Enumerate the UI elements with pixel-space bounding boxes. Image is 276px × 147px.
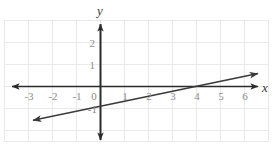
x-tick-label: -3	[24, 90, 34, 102]
x-tick-label: -2	[48, 90, 57, 102]
y-tick-label: 1	[90, 59, 96, 71]
y-tick-label: 2	[90, 37, 96, 49]
x-tick-label: 2	[146, 90, 152, 102]
x-tick-label: 6	[242, 90, 248, 102]
x-axis-label: x	[261, 80, 268, 95]
graph-canvas: -3 -2 -1 0 1 2 3 4 5 6 2 1 -1 y x	[0, 0, 276, 147]
x-tick-label: 5	[218, 90, 224, 102]
x-tick-label: 4	[194, 90, 200, 102]
x-tick-label: 1	[122, 90, 128, 102]
y-axis-label: y	[95, 3, 103, 18]
figure-background	[0, 0, 276, 147]
x-tick-label: -1	[72, 90, 81, 102]
y-tick-label: -1	[88, 103, 97, 115]
coordinate-plane-figure: -3 -2 -1 0 1 2 3 4 5 6 2 1 -1 y x	[0, 0, 276, 147]
x-tick-label: 3	[170, 90, 176, 102]
x-tick-label: 0	[91, 90, 97, 102]
